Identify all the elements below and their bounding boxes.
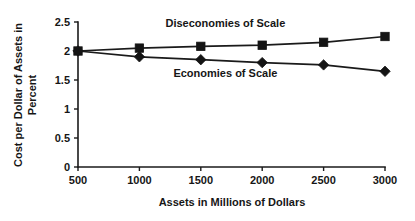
data-point-marker-square [258, 41, 266, 49]
series-annotation-1: Diseconomies of Scale [165, 17, 285, 29]
y-axis-tick-label: 1.5 [55, 74, 70, 86]
x-axis-tick-label: 2500 [311, 174, 335, 186]
x-axis-tick-label: 1000 [127, 174, 151, 186]
economies-of-scale-chart: 00.511.522.5 50010001500200025003000 Dis… [0, 0, 415, 221]
series-annotation-2: Economies of Scale [173, 67, 277, 79]
chart-canvas: 00.511.522.5 50010001500200025003000 Dis… [0, 0, 415, 221]
y-axis-tick-label: 1 [64, 103, 70, 115]
y-axis-tick-label: 2 [64, 45, 70, 57]
y-axis-tick-label: 0 [64, 161, 70, 173]
x-axis-title: Assets in Millions of Dollars [159, 196, 306, 208]
x-axis-tick-label: 3000 [373, 174, 397, 186]
y-axis-tick-label: 0.5 [55, 132, 70, 144]
y-axis-tick-label: 2.5 [55, 16, 70, 28]
x-axis-tick-label: 2000 [250, 174, 274, 186]
x-axis-tick-label: 500 [69, 174, 87, 186]
x-axis-tick-label: 1500 [189, 174, 213, 186]
y-axis-title-line-2: Percent [26, 74, 38, 115]
data-point-marker-square [381, 32, 389, 40]
data-point-marker-square [319, 38, 327, 46]
chart-background [0, 0, 415, 221]
y-axis-title-line-1: Cost per Dollar of Assets in [12, 23, 24, 167]
data-point-marker-square [197, 42, 205, 50]
